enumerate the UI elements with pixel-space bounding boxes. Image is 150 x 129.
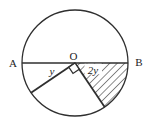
label-angle-2y: 2y <box>88 64 99 76</box>
circle-diagram: O A B y 2y <box>0 0 150 129</box>
label-point-A: A <box>9 57 17 69</box>
label-center-O: O <box>70 50 78 62</box>
geometry-figure: O A B y 2y <box>0 0 150 129</box>
label-point-B: B <box>135 56 142 68</box>
label-angle-y: y <box>49 65 55 77</box>
